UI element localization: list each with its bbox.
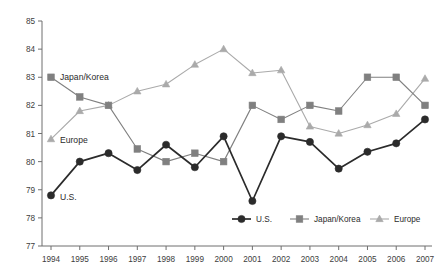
y-tick-label: 83 [26,73,36,82]
data-point-circle [278,133,285,140]
data-point-square [48,74,55,81]
x-tick-label: 1999 [186,255,205,264]
data-point-square [105,102,112,109]
data-point-square [307,102,314,109]
data-point-square [192,150,199,157]
x-tick-label: 2001 [243,255,262,264]
data-point-square [220,158,227,165]
data-point-square [335,108,342,115]
x-tick-label: 2007 [416,255,435,264]
y-tick-label: 81 [26,130,36,139]
chart-page: 777879808182838485 199419951996199719981… [0,0,445,275]
data-point-circle [105,150,112,157]
y-tick-label: 79 [26,186,36,195]
data-point-circle [335,165,342,172]
data-point-circle [134,166,141,173]
data-point-circle [421,116,428,123]
data-point-circle [249,197,256,204]
data-point-circle [306,138,313,145]
data-point-circle [220,133,227,140]
data-point-circle [191,164,198,171]
line-chart: 777879808182838485 199419951996199719981… [0,0,445,275]
x-tick-label: 1994 [42,255,61,264]
data-point-circle [393,140,400,147]
y-tick-label: 80 [26,158,36,167]
data-point-square [249,102,256,109]
x-tick-label: 2002 [272,255,291,264]
legend-label: Japan/Korea [314,215,361,224]
annotation-us: U.S. [60,192,77,202]
data-point-square [134,146,141,153]
data-point-square [278,116,285,123]
annotation-japan_korea: Japan/Korea [60,72,109,82]
data-point-circle [238,215,245,222]
data-point-square [296,216,303,223]
data-point-circle [364,148,371,155]
x-tick-label: 2000 [215,255,234,264]
y-axis-tick-labels: 777879808182838485 [26,17,36,251]
annotation-europe: Europe [60,135,88,145]
x-tick-label: 2003 [301,255,320,264]
x-tick-label: 1997 [128,255,147,264]
data-point-circle [76,158,83,165]
data-point-circle [162,141,169,148]
y-tick-label: 85 [26,17,36,26]
y-tick-label: 78 [26,214,36,223]
x-tick-label: 1998 [157,255,176,264]
data-point-square [393,74,400,81]
x-tick-label: 2005 [358,255,377,264]
y-tick-label: 82 [26,101,36,110]
x-tick-label: 1995 [71,255,90,264]
data-point-circle [47,192,54,199]
data-point-square [163,158,170,165]
data-point-square [76,94,83,101]
x-tick-label: 2006 [387,255,406,264]
y-tick-label: 84 [26,45,36,54]
y-tick-label: 77 [26,242,36,251]
x-tick-label: 2004 [330,255,349,264]
data-point-square [364,74,371,81]
data-point-square [422,102,429,109]
legend-label: Europe [394,215,421,224]
legend-label: U.S. [256,215,272,224]
x-tick-label: 1996 [99,255,118,264]
